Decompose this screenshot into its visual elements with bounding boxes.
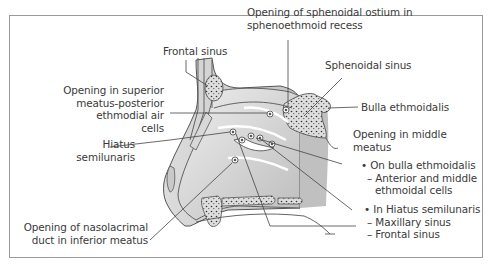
label-line: Opening in superior <box>50 84 164 97</box>
label-item: – Maxillary sinus <box>364 216 480 229</box>
label-line: Opening of nasolacrimal <box>10 221 148 234</box>
label-sphenoidal-sinus: Sphenoidal sinus <box>325 59 411 72</box>
label-line: Hiatus <box>50 138 135 151</box>
label-bulla-ethmoidalis: Bulla ethmoidalis <box>361 101 449 114</box>
label-frontal-sinus: Frontal sinus <box>163 45 227 58</box>
label-on-bulla: • On bulla ethmoidalis – Anterior and mi… <box>361 159 477 197</box>
label-line: Opening of sphenoidal ostium in <box>247 6 413 19</box>
label-line: ethmodial air <box>50 109 164 122</box>
label-line: meatus-posterior <box>50 97 164 110</box>
label-line: sphenoethmoid recess <box>247 19 413 32</box>
label-hiatus-semilunaris: Hiatus semilunaris <box>50 138 135 163</box>
label-heading: • In Hiatus semilunaris <box>364 203 480 216</box>
label-line: cells <box>50 122 164 135</box>
label-sphenoidal-ostium: Opening of sphenoidal ostium in sphenoet… <box>247 6 413 31</box>
label-item: – Frontal sinus <box>364 228 480 241</box>
label-line: Opening in middle <box>353 128 447 141</box>
label-item: – Anterior and middle <box>361 172 477 185</box>
label-heading: • On bulla ethmoidalis <box>361 159 477 172</box>
label-middle-meatus: Opening in middle meatus <box>353 128 447 153</box>
label-nasolacrimal: Opening of nasolacrimal duct in inferior… <box>10 221 148 246</box>
label-in-hiatus: • In Hiatus semilunaris – Maxillary sinu… <box>364 203 480 241</box>
label-superior-meatus: Opening in superior meatus-posterior eth… <box>50 84 164 134</box>
label-item: ethmoidal cells <box>361 184 477 197</box>
label-line: semilunaris <box>50 151 135 164</box>
frontal-sinus-shape <box>205 75 223 101</box>
label-line: meatus <box>353 141 447 154</box>
label-line: duct in inferior meatus <box>10 234 148 247</box>
